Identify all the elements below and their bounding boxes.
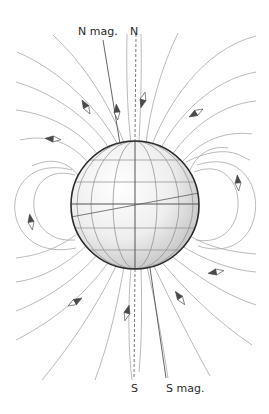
label-geographic-south: S xyxy=(131,383,138,394)
magnetic-south-axis xyxy=(150,268,166,378)
compass-needle-icon xyxy=(113,104,120,120)
compass-needle-icon xyxy=(27,214,36,231)
magnetic-field-diagram: N mag. N S S mag. xyxy=(0,0,269,414)
geographic-south-axis xyxy=(134,269,135,378)
geographic-north-axis xyxy=(135,34,136,141)
magnetic-north-axis xyxy=(103,40,120,144)
earth-globe xyxy=(60,141,210,269)
compass-needle-icon xyxy=(122,304,132,321)
label-magnetic-north: N mag. xyxy=(78,26,118,37)
compass-needle-icon xyxy=(138,91,148,108)
compass-needle-icon xyxy=(67,295,84,308)
label-magnetic-south: S mag. xyxy=(166,383,204,394)
label-geographic-north: N xyxy=(130,26,138,37)
compass-needle-icon xyxy=(208,268,225,277)
compass-needle-icon xyxy=(234,175,241,191)
compass-needle-icon xyxy=(173,290,187,307)
diagram-canvas xyxy=(0,0,269,414)
